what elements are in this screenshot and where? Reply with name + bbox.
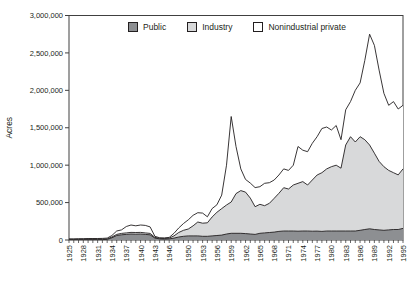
legend-label-industry: Industry (202, 23, 232, 32)
industry-swatch-icon (187, 22, 197, 32)
stacked-area-chart: 0500,0001,000,0001,500,0002,000,0002,500… (0, 0, 416, 282)
x-tick-label: 1943 (151, 245, 160, 262)
x-tick-label: 1953 (199, 245, 208, 262)
x-tick-label: 1992 (385, 245, 394, 262)
stacked-area-chart-figure: 0500,0001,000,0001,500,0002,000,0002,500… (0, 0, 416, 282)
legend-item-public: Public (128, 22, 166, 32)
x-tick-label: 1931 (94, 245, 103, 262)
x-tick-label: 1983 (342, 245, 351, 262)
x-tick-label: 1928 (79, 245, 88, 262)
legend-label-public: Public (143, 23, 166, 32)
nonindustrial-private-swatch-icon (253, 22, 263, 32)
x-tick-label: 1989 (370, 245, 379, 262)
public-swatch-icon (128, 22, 138, 32)
x-tick-label: 1956 (213, 245, 222, 262)
y-tick-label: 1,000,000 (30, 161, 63, 170)
y-tick-label: 2,500,000 (30, 49, 63, 58)
x-tick-label: 1940 (137, 245, 146, 262)
x-tick-label: 1986 (356, 245, 365, 262)
x-tick-label: 1965 (256, 245, 265, 262)
x-tick-label: 1971 (284, 245, 293, 262)
x-tick-label: 1934 (108, 245, 117, 262)
x-tick-label: 1959 (227, 245, 236, 262)
x-tick-label: 1937 (122, 245, 131, 262)
x-tick-label: 1977 (313, 245, 322, 262)
y-tick-label: 3,000,000 (30, 11, 63, 20)
chart-legend: Public Industry Nonindustrial private (128, 22, 346, 32)
x-tick-label: 1925 (65, 245, 74, 262)
legend-item-industry: Industry (187, 22, 232, 32)
x-tick-label: 1950 (184, 245, 193, 262)
y-tick-label: 500,000 (36, 198, 63, 207)
legend-label-nonindustrial: Nonindustrial private (268, 23, 345, 32)
y-tick-label: 0 (59, 236, 63, 245)
x-tick-label: 1980 (327, 245, 336, 262)
legend-item-nonindustrial: Nonindustrial private (253, 22, 345, 32)
x-tick-label: 1946 (165, 245, 174, 262)
x-tick-label: 1962 (242, 245, 251, 262)
x-tick-label: 1995 (399, 245, 408, 262)
x-tick-label: 1974 (299, 245, 308, 262)
y-axis-title: Acres (4, 117, 14, 139)
y-tick-label: 2,000,000 (30, 86, 63, 95)
y-tick-label: 1,500,000 (30, 123, 63, 132)
x-tick-label: 1968 (270, 245, 279, 262)
